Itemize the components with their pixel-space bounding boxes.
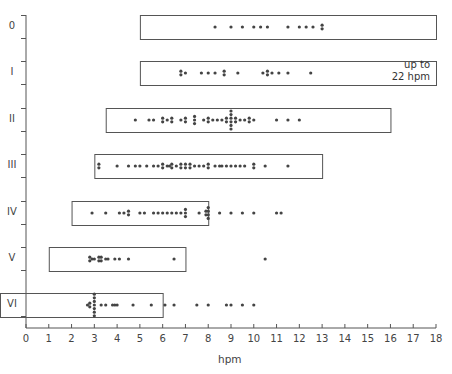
data-point (248, 120, 251, 123)
data-point (195, 303, 198, 306)
data-point (104, 211, 107, 214)
x-tick-label: 10 (244, 333, 264, 344)
data-point (134, 164, 137, 167)
category-label-V: V (2, 252, 22, 263)
data-point (213, 25, 216, 28)
data-point (225, 120, 228, 123)
data-point (252, 303, 255, 306)
x-tick-label: 15 (358, 333, 378, 344)
data-point (88, 302, 91, 305)
data-point (143, 211, 146, 214)
data-point (184, 163, 187, 166)
data-point (138, 164, 141, 167)
data-point (93, 300, 96, 303)
data-point (207, 71, 210, 74)
data-point (161, 117, 164, 120)
data-point (170, 117, 173, 120)
data-point (234, 120, 237, 123)
data-point (170, 211, 173, 214)
data-point (100, 256, 103, 259)
data-point (179, 70, 182, 73)
data-point (280, 211, 283, 214)
data-point (213, 164, 216, 167)
data-point (286, 118, 289, 121)
data-point (172, 303, 175, 306)
data-point (188, 166, 191, 169)
data-point (122, 211, 125, 214)
x-tick-label: 11 (267, 333, 287, 344)
data-point (113, 257, 116, 260)
data-point (286, 25, 289, 28)
data-point (207, 206, 210, 209)
category-label-II: II (2, 113, 22, 124)
data-point (229, 303, 232, 306)
data-point (252, 118, 255, 121)
data-point (127, 213, 130, 216)
data-point (207, 120, 210, 123)
data-point (179, 73, 182, 76)
x-tick-label: 14 (335, 333, 355, 344)
data-point (309, 71, 312, 74)
data-point (252, 211, 255, 214)
data-point (90, 211, 93, 214)
data-point (275, 211, 278, 214)
data-point (166, 211, 169, 214)
data-point (166, 118, 169, 121)
x-tick-label: 2 (62, 333, 82, 344)
x-tick-label: 9 (221, 333, 241, 344)
data-point (286, 164, 289, 167)
data-point (225, 303, 228, 306)
data-point (275, 118, 278, 121)
x-tick-label: 5 (130, 333, 150, 344)
data-point (193, 122, 196, 125)
data-point (213, 71, 216, 74)
data-points (86, 24, 324, 318)
category-label-III: III (2, 159, 22, 170)
data-point (175, 211, 178, 214)
data-point (264, 164, 267, 167)
data-point (270, 71, 273, 74)
data-point (207, 217, 210, 220)
data-point (93, 314, 96, 317)
data-point (198, 211, 201, 214)
data-point (157, 211, 160, 214)
data-point (234, 117, 237, 120)
data-point (207, 210, 210, 213)
data-point (259, 25, 262, 28)
data-point (261, 71, 264, 74)
data-point (229, 120, 232, 123)
data-point (184, 208, 187, 211)
data-point (161, 166, 164, 169)
data-point (193, 118, 196, 121)
data-point (106, 257, 109, 260)
data-point (118, 257, 121, 260)
data-point (179, 118, 182, 121)
data-point (93, 257, 96, 260)
data-point (220, 118, 223, 121)
x-tick-label: 13 (312, 333, 332, 344)
x-tick-label: 16 (380, 333, 400, 344)
data-point (184, 120, 187, 123)
category-label-0: 0 (2, 20, 22, 31)
data-point (184, 117, 187, 120)
data-point (248, 117, 251, 120)
data-point (241, 303, 244, 306)
data-point (229, 211, 232, 214)
data-point (127, 257, 130, 260)
data-point (100, 303, 103, 306)
data-point (200, 71, 203, 74)
data-point (152, 164, 155, 167)
data-point (239, 164, 242, 167)
data-point (93, 307, 96, 310)
data-point (225, 164, 228, 167)
data-point (252, 25, 255, 28)
data-point (161, 120, 164, 123)
data-point (131, 303, 134, 306)
x-tick-label: 0 (16, 333, 36, 344)
category-label-VI: VI (2, 298, 22, 309)
data-point (127, 210, 130, 213)
data-point (138, 211, 141, 214)
data-point (157, 164, 160, 167)
x-tick-label: 4 (107, 333, 127, 344)
data-point (184, 211, 187, 214)
